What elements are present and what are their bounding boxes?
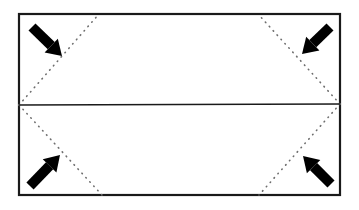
origami-diagram: Origami fold diagram Rectangle with hori… <box>0 0 359 210</box>
diagram-canvas <box>0 0 359 210</box>
center-horizontal-crease <box>19 104 340 105</box>
